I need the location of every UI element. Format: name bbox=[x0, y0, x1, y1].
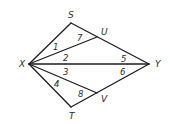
segment-ty bbox=[71, 64, 149, 107]
angle-label-4: 4 bbox=[54, 79, 59, 89]
angle-label-2: 2 bbox=[63, 53, 68, 63]
angle-label-7: 7 bbox=[77, 33, 83, 43]
vertex-label-s: S bbox=[68, 10, 74, 20]
angle-labels: 17253648 bbox=[53, 33, 126, 99]
geometry-diagram: XSUYVT 17253648 bbox=[0, 0, 170, 124]
angle-label-8: 8 bbox=[78, 89, 84, 99]
vertex-label-v: V bbox=[101, 94, 108, 104]
angle-label-6: 6 bbox=[120, 67, 126, 77]
angle-label-5: 5 bbox=[121, 54, 126, 64]
segment-sy bbox=[71, 23, 149, 64]
vertex-label-x: X bbox=[18, 59, 26, 69]
vertex-label-u: U bbox=[101, 27, 108, 37]
segments bbox=[29, 23, 149, 107]
vertex-label-y: Y bbox=[155, 59, 162, 69]
vertex-label-t: T bbox=[69, 111, 76, 121]
vertex-labels: XSUYVT bbox=[18, 10, 162, 121]
angle-label-1: 1 bbox=[53, 42, 58, 52]
angle-label-3: 3 bbox=[63, 67, 68, 77]
